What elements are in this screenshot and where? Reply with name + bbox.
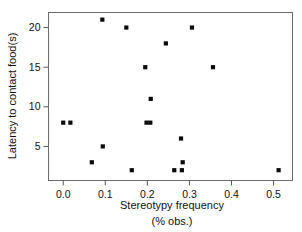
data-point [181,160,185,164]
data-point [180,168,184,172]
data-point [179,136,183,140]
data-point [143,65,147,69]
y-tick-label-10: 10 [29,100,41,112]
data-point [124,25,128,29]
plot-frame [49,13,293,181]
data-point [144,121,148,125]
data-point [130,168,134,172]
data-point [172,168,176,172]
data-point [164,41,168,45]
data-point [277,168,281,172]
y-tick-label-20: 20 [29,21,41,33]
x-tick-label-0.1: 0.1 [98,188,113,200]
y-tick-label-15: 15 [29,61,41,73]
data-point [100,18,104,22]
data-point [190,25,194,29]
x-tick-label-0.5: 0.5 [266,188,281,200]
data-point [211,65,215,69]
data-point [61,121,65,125]
data-point-series [61,18,281,173]
data-point [68,121,72,125]
chart-canvas: 5101520 0.00.10.20.30.40.5 Latency to co… [0,0,302,232]
x-tick-label-0.0: 0.0 [56,188,71,200]
y-axis-title: Latency to contact food(s) [6,33,18,160]
data-point [148,121,152,125]
x-axis-tick-labels: 0.00.10.20.30.40.5 [56,188,281,200]
y-axis-ticks [44,28,49,147]
x-axis-subtitle: (% obs.) [152,215,193,227]
data-point [101,144,105,148]
y-axis-tick-labels: 5101520 [29,21,41,152]
x-tick-label-0.4: 0.4 [224,188,239,200]
x-tick-label-0.3: 0.3 [182,188,197,200]
x-axis-ticks [63,181,273,186]
scatter-plot-figure: 5101520 0.00.10.20.30.40.5 Latency to co… [0,0,302,232]
y-tick-label-5: 5 [35,140,41,152]
data-point [90,160,94,164]
x-tick-label-0.2: 0.2 [140,188,155,200]
data-point [149,97,153,101]
x-axis-title: Stereotypy frequency [120,199,224,211]
